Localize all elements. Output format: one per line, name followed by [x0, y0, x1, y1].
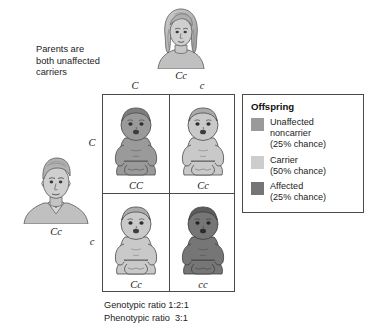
punnett-cell-cc[interactable]: cc: [170, 194, 236, 292]
mother-illustration: [150, 5, 212, 69]
punnett-cell-genotype: Cc: [197, 180, 209, 191]
punnett-cell-CC[interactable]: CC: [103, 95, 169, 193]
baby-carrier-1: [174, 105, 232, 179]
legend-swatch-unaffected-noncarrier: [251, 118, 264, 131]
baby-unaffected-noncarrier: [107, 105, 165, 179]
offspring-legend: Offspring Unaffected noncarrier (25% cha…: [242, 94, 364, 213]
phenotypic-ratio-label: Phenotypic ratio 3:1: [104, 313, 188, 324]
legend-item-carrier: Carrier (50% chance): [251, 155, 357, 177]
punnett-row-allele-2: c: [86, 236, 98, 247]
legend-swatch-affected: [251, 182, 264, 195]
legend-swatch-carrier: [251, 156, 264, 169]
legend-label-unaffected-noncarrier: Unaffected noncarrier (25% chance): [270, 117, 326, 151]
punnett-column-allele-2: c: [169, 80, 235, 91]
father-genotype-label: Cc: [20, 226, 92, 237]
legend-label-affected: Affected (25% chance): [270, 181, 326, 203]
legend-label-carrier: Carrier (50% chance): [270, 155, 326, 177]
diagram-canvas: Parents are both unaffected carriers: [0, 0, 375, 336]
baby-affected: [174, 204, 232, 278]
legend-item-affected: Affected (25% chance): [251, 181, 357, 203]
punnett-cell-Cc-2[interactable]: Cc: [103, 194, 169, 292]
father-illustration: [20, 152, 92, 224]
punnett-cell-Cc-1[interactable]: Cc: [170, 95, 236, 193]
punnett-cell-genotype: CC: [129, 180, 143, 191]
punnett-row-allele-1: C: [86, 137, 98, 148]
baby-carrier-2: [107, 204, 165, 278]
punnett-column-allele-1: C: [102, 80, 168, 91]
legend-item-unaffected-noncarrier: Unaffected noncarrier (25% chance): [251, 117, 357, 151]
parents-caption: Parents are both unaffected carriers: [36, 44, 100, 79]
punnett-cell-genotype: cc: [198, 279, 207, 290]
legend-title: Offspring: [251, 101, 357, 112]
punnett-cell-genotype: Cc: [130, 279, 142, 290]
genotypic-ratio-label: Genotypic ratio 1:2:1: [104, 300, 189, 311]
punnett-square-grid: CC: [102, 94, 235, 292]
